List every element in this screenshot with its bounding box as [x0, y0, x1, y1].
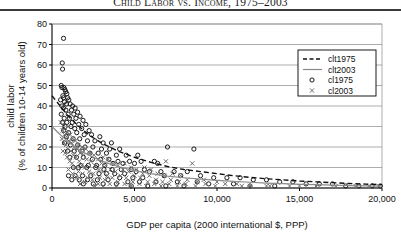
y-tick-20: 20 — [37, 142, 47, 152]
y-tick-30: 30 — [37, 122, 47, 132]
y-tick-50: 50 — [37, 81, 47, 91]
y-tick-70: 70 — [37, 40, 47, 50]
x-tick-2: 10,000 — [203, 194, 231, 204]
chart-plot: 05,00010,00015,00020,000 010203040506070… — [0, 0, 401, 242]
chart-legend[interactable]: clt1975clt2003cl1975cl2003 — [298, 50, 376, 96]
x-tick-4: 20,000 — [368, 194, 396, 204]
x-tick-1: 5,000 — [123, 194, 146, 204]
y-tick-0: 0 — [42, 183, 47, 193]
legend-label-clt1975: clt1975 — [328, 54, 356, 64]
y-tick-80: 80 — [37, 19, 47, 29]
legend-label-cl2003: cl2003 — [328, 86, 353, 96]
trendline-clt1975 — [52, 96, 382, 185]
x-tick-3: 15,000 — [286, 194, 314, 204]
y-axis-label-line1: child labor — [5, 84, 16, 127]
x-tick-0: 0 — [49, 194, 54, 204]
x-tick-labels: 05,00010,00015,00020,000 — [49, 188, 395, 204]
y-tick-10: 10 — [37, 163, 47, 173]
legend-label-clt2003: clt2003 — [328, 65, 356, 75]
y-axis-label-line2: (% of children 10-14 years old) — [16, 41, 27, 170]
y-tick-labels: 01020304050607080 — [37, 19, 52, 193]
x-axis-label: GDP per capita (2000 international $, PP… — [126, 219, 307, 230]
y-tick-40: 40 — [37, 101, 47, 111]
y-tick-60: 60 — [37, 60, 47, 70]
chart-figure: Child Labor vs. Income, 1975–2003 05,000… — [0, 0, 401, 242]
legend-label-cl1975: cl1975 — [328, 75, 353, 85]
